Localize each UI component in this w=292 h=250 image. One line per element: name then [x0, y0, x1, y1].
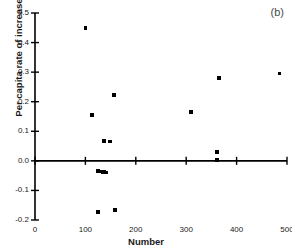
data-point: [96, 210, 100, 214]
data-point: [189, 110, 193, 114]
scatter-plot-figure: (b) Per capita rate of increase Number -…: [0, 0, 292, 250]
data-point: [215, 158, 219, 162]
data-point: [105, 171, 109, 175]
data-point: [215, 150, 219, 154]
data-points-layer: [0, 0, 292, 250]
data-point: [278, 72, 282, 76]
data-point: [112, 93, 116, 97]
data-point: [84, 26, 88, 30]
data-point: [108, 140, 112, 144]
data-point: [113, 208, 117, 212]
data-point: [90, 113, 94, 117]
data-point: [102, 139, 106, 143]
data-point: [217, 76, 221, 80]
